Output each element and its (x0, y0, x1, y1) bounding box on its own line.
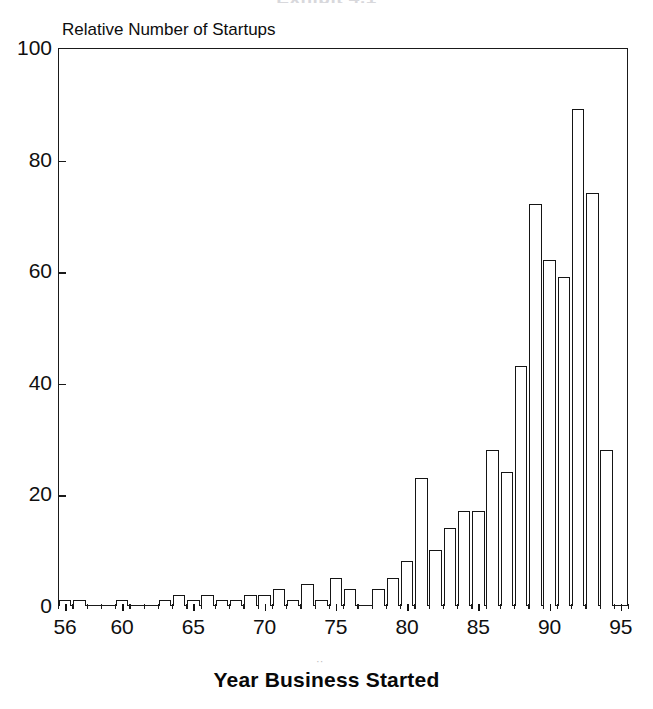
x-axis-major-tick (122, 604, 124, 611)
x-axis-minor-tick (357, 604, 358, 609)
histogram-bar (529, 204, 542, 606)
x-axis-major-tick (265, 604, 267, 611)
x-axis-minor-tick (600, 604, 601, 609)
histogram-bar (515, 366, 528, 606)
histogram-bar (330, 578, 343, 606)
x-axis-minor-tick (585, 604, 586, 609)
x-axis-minor-tick (457, 604, 458, 609)
histogram-bar (415, 478, 428, 606)
y-axis-tick-label: 60 (6, 260, 52, 281)
x-axis-minor-tick (343, 604, 344, 609)
histogram-bar (572, 109, 585, 606)
x-axis-minor-tick (414, 604, 415, 609)
x-axis-tick-label: 80 (382, 615, 432, 639)
x-axis-minor-tick (614, 604, 615, 609)
x-axis-minor-tick (129, 604, 130, 609)
y-axis-tick-label: 100 (6, 37, 52, 58)
histogram-bar (429, 550, 442, 606)
chart-figure: Exhibit 4.1 Relative Number of Startups … (0, 0, 653, 709)
x-axis-minor-tick (272, 604, 273, 609)
histogram-bar (543, 260, 556, 606)
histogram-bar (387, 578, 400, 606)
histogram-bar (472, 511, 485, 606)
x-axis-minor-tick (87, 604, 88, 609)
x-axis-minor-tick (372, 604, 373, 609)
x-axis-minor-tick (58, 604, 59, 609)
x-axis-minor-tick (315, 604, 316, 609)
x-axis-minor-tick (400, 604, 401, 609)
x-axis-minor-tick (300, 604, 301, 609)
x-axis-tick-label: 56 (40, 615, 90, 639)
x-axis-major-tick (550, 604, 552, 611)
x-axis-tick-label: 90 (525, 615, 575, 639)
y-axis-tick-labels: 100806040200 (0, 0, 52, 709)
y-axis-tick-label: 20 (6, 483, 52, 504)
x-axis-tick-label: 95 (596, 615, 646, 639)
x-axis-minor-tick (429, 604, 430, 609)
x-axis-caption: Year Business Started (0, 668, 653, 692)
x-axis-major-tick (65, 604, 67, 611)
x-axis-tick-label: 65 (168, 615, 218, 639)
x-axis-minor-tick (286, 604, 287, 609)
x-axis-minor-tick (571, 604, 572, 609)
histogram-bar (458, 511, 471, 606)
x-axis-minor-tick (329, 604, 330, 609)
x-axis-minor-tick (514, 604, 515, 609)
histogram-bar (558, 277, 571, 606)
x-axis-minor-tick (229, 604, 230, 609)
x-axis-minor-tick (158, 604, 159, 609)
x-axis-major-tick (193, 604, 195, 611)
x-axis-minor-tick (628, 604, 629, 609)
x-axis-minor-tick (72, 604, 73, 609)
y-axis-tick-label: 80 (6, 149, 52, 170)
x-axis-minor-tick (443, 604, 444, 609)
x-axis-tick-label: 70 (240, 615, 290, 639)
x-axis-major-tick (621, 604, 623, 611)
x-axis-minor-tick (557, 604, 558, 609)
histogram-bar (501, 472, 514, 606)
x-axis-tick-label: 75 (311, 615, 361, 639)
bars-layer (58, 48, 628, 606)
x-axis-minor-tick (186, 604, 187, 609)
x-axis-minor-tick (386, 604, 387, 609)
y-axis-tick-label: 40 (6, 372, 52, 393)
histogram-bar (586, 193, 599, 606)
y-axis-caption: Relative Number of Startups (62, 20, 276, 40)
x-axis-minor-tick (215, 604, 216, 609)
y-axis-tick-label: 0 (6, 595, 52, 616)
x-axis-minor-tick (101, 604, 102, 609)
x-axis-major-tick (407, 604, 409, 611)
x-axis-minor-tick (115, 604, 116, 609)
histogram-bar (600, 450, 613, 606)
x-axis-minor-tick (243, 604, 244, 609)
histogram-bar (444, 528, 457, 606)
x-axis-major-tick (336, 604, 338, 611)
x-axis-minor-tick (172, 604, 173, 609)
x-axis-minor-tick (144, 604, 145, 609)
x-axis-tick-label: 60 (97, 615, 147, 639)
histogram-bar (401, 561, 414, 606)
x-axis-minor-tick (486, 604, 487, 609)
x-axis-tick-labels: 566065707580859095 (0, 615, 653, 645)
chart-title: Exhibit 4.1 (0, 0, 653, 3)
x-axis-tick-label: 85 (453, 615, 503, 639)
x-axis-minor-tick (528, 604, 529, 609)
x-axis-tick-marks (58, 604, 628, 612)
x-axis-minor-tick (543, 604, 544, 609)
x-axis-major-tick (478, 604, 480, 611)
x-axis-minor-tick (201, 604, 202, 609)
histogram-bar (486, 450, 499, 606)
scan-artifact: ·· (316, 659, 330, 663)
x-axis-minor-tick (471, 604, 472, 609)
x-axis-minor-tick (500, 604, 501, 609)
x-axis-minor-tick (258, 604, 259, 609)
histogram-bar (301, 584, 314, 606)
